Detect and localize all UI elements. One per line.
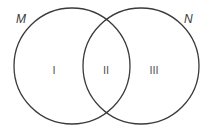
region-i-label: I	[52, 64, 55, 76]
set-n-circle	[83, 8, 199, 124]
venn-diagram: M N I II III	[0, 0, 211, 138]
set-n-label: N	[184, 12, 193, 26]
region-ii-label: II	[103, 64, 109, 76]
set-m-label: M	[16, 12, 26, 26]
region-iii-label: III	[149, 64, 158, 76]
set-m-circle	[14, 8, 130, 124]
